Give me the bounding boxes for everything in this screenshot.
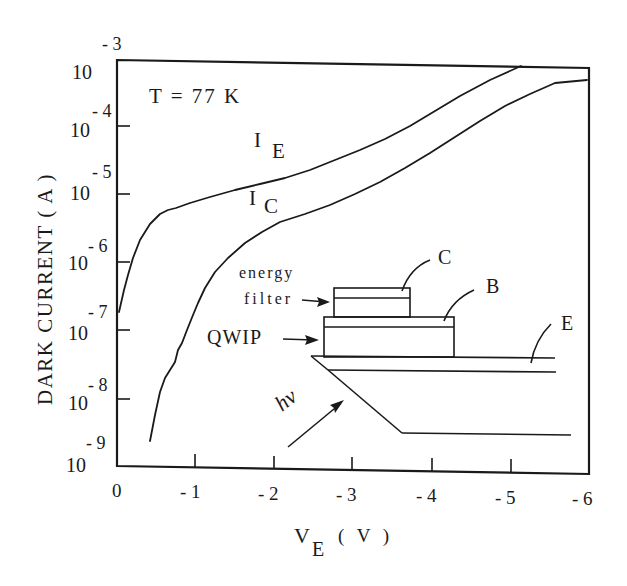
- svg-text:- 3: - 3: [102, 34, 122, 54]
- label-emitter-current: I E: [254, 128, 285, 163]
- svg-text:10: 10: [68, 322, 88, 344]
- contact-e-label: E: [561, 312, 573, 334]
- svg-text:- 6: - 6: [88, 236, 108, 256]
- svg-text:I: I: [249, 186, 256, 210]
- svg-text:C: C: [264, 194, 278, 218]
- svg-text:10: 10: [68, 392, 88, 414]
- svg-text:E: E: [272, 139, 285, 163]
- energy-filter-label-2: filter: [244, 290, 293, 307]
- energy-filter-label: energy: [239, 264, 294, 282]
- svg-text:- 2: - 2: [258, 483, 279, 504]
- svg-text:- 5: - 5: [92, 162, 112, 182]
- qwip-label: QWIP: [207, 326, 262, 348]
- x-axis-title: V E ( V ): [294, 523, 393, 560]
- contact-b-label: B: [486, 275, 499, 297]
- svg-text:- 9: - 9: [86, 433, 106, 453]
- svg-text:- 4: - 4: [92, 101, 112, 121]
- svg-text:E: E: [312, 538, 324, 560]
- svg-text:10: 10: [70, 182, 90, 204]
- y-axis-ticks: [117, 126, 130, 399]
- svg-text:10: 10: [68, 252, 88, 274]
- temperature-annotation: T = 77 K: [149, 84, 241, 108]
- device-schematic-inset: C B E energy filter QWIP hν: [207, 246, 573, 447]
- arrow-head-icon: [305, 335, 319, 345]
- svg-text:- 7: - 7: [88, 302, 108, 322]
- svg-text:10: 10: [70, 119, 90, 141]
- svg-text:10: 10: [72, 61, 92, 83]
- svg-text:- 6: - 6: [572, 488, 593, 509]
- svg-text:- 4: - 4: [416, 485, 437, 506]
- qwip-mesa: [324, 317, 454, 357]
- chart-canvas: - 3 10 - 4 10 - 5 10 - 6 10 - 7 10 - 8 1…: [0, 0, 627, 586]
- svg-text:10: 10: [66, 454, 86, 476]
- photon-label: hν: [270, 383, 302, 416]
- svg-text:- 5: - 5: [495, 487, 516, 508]
- curve-collector-current: [150, 80, 587, 441]
- label-collector-current: I C: [249, 186, 278, 218]
- svg-text:- 8: - 8: [88, 375, 108, 395]
- y-axis-tick-labels: - 3 10 - 4 10 - 5 10 - 6 10 - 7 10 - 8 1…: [66, 34, 122, 476]
- svg-text:- 1: - 1: [180, 481, 201, 502]
- svg-text:( V ): ( V ): [338, 525, 393, 547]
- contact-c-label: C: [438, 246, 451, 268]
- svg-text:I: I: [254, 128, 261, 152]
- x-axis-tick-labels: 0 - 1 - 2 - 3 - 4 - 5 - 6: [112, 480, 593, 509]
- svg-text:0: 0: [112, 480, 122, 501]
- contact-c-leader: [402, 260, 430, 291]
- svg-text:- 3: - 3: [336, 484, 357, 505]
- energy-filter-mesa: [334, 288, 410, 317]
- photon-arrow: [288, 404, 340, 447]
- y-axis-title: DARK CURRENT ( A ): [33, 173, 57, 405]
- plot-frame: [117, 60, 589, 474]
- svg-text:V: V: [294, 523, 310, 548]
